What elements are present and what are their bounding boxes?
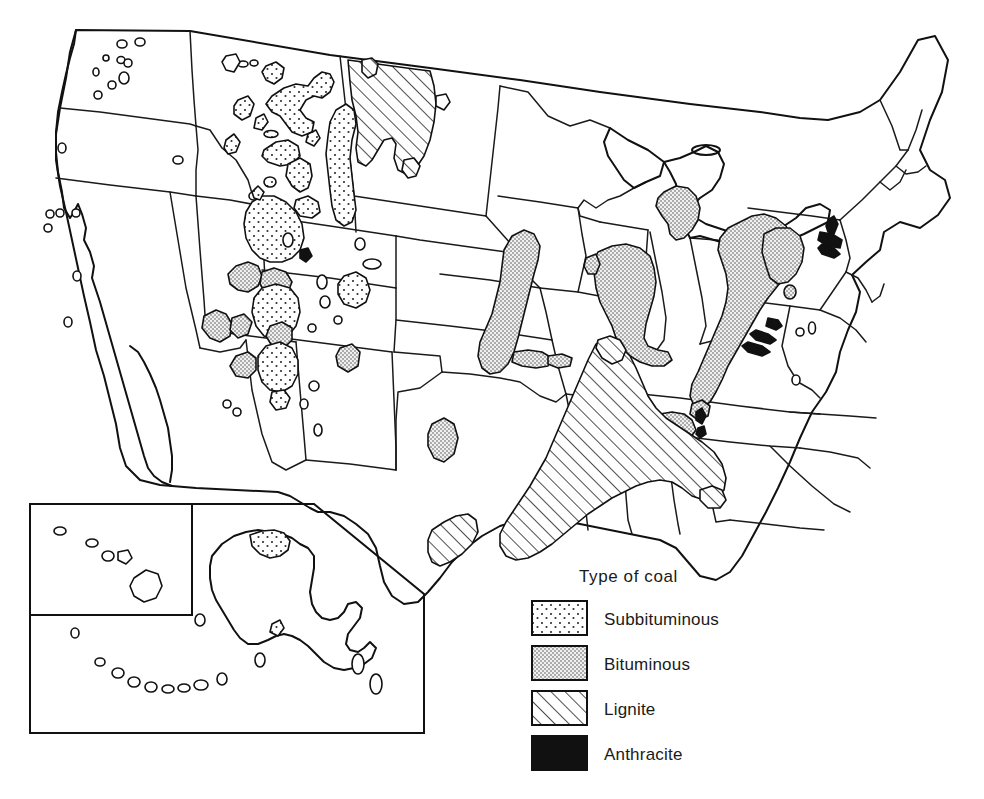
- legend-swatch-subbituminous: [532, 601, 587, 635]
- legend-swatch-anthracite: [532, 736, 587, 770]
- map-background: [0, 0, 984, 799]
- legend-title: Type of coal: [579, 567, 678, 586]
- legend-label-anthracite: Anthracite: [604, 745, 683, 764]
- legend-label-bituminous: Bituminous: [604, 655, 690, 674]
- coal-deposits-map-figure: Type of coal Subbituminous Bituminous Li…: [0, 0, 984, 799]
- legend-swatch-bituminous: [532, 646, 587, 680]
- map-canvas: Type of coal Subbituminous Bituminous Li…: [0, 0, 984, 799]
- legend-label-lignite: Lignite: [604, 700, 656, 719]
- legend-label-subbituminous: Subbituminous: [604, 610, 719, 629]
- legend-swatch-lignite: [532, 691, 587, 725]
